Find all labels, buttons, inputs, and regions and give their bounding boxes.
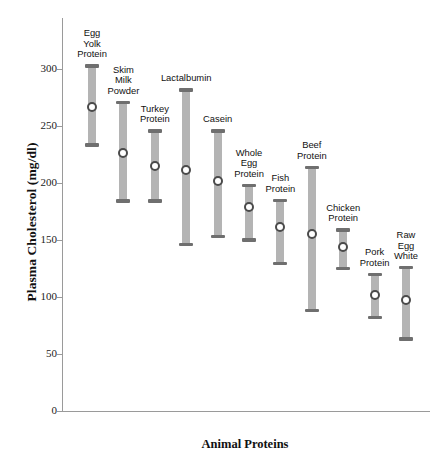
mean-marker[interactable] [370,290,380,300]
mean-marker[interactable] [213,176,223,186]
y-axis-line [62,18,63,412]
series-label: RawEggWhite [394,230,418,261]
range-bar [276,200,284,264]
y-tick-label: 200 [41,176,58,188]
range-cap-upper [305,166,319,170]
range-cap-lower [336,267,350,271]
range-bar [245,185,253,240]
y-tick-mark [57,354,62,355]
range-cap-lower [399,337,413,341]
mean-marker[interactable] [87,102,97,112]
y-tick-mark [57,240,62,241]
range-cap-lower [368,316,382,320]
series-label: WholeEggProtein [234,148,264,179]
range-cap-lower [148,199,162,203]
range-cap-upper [148,129,162,133]
mean-marker[interactable] [244,202,254,212]
y-tick-label: 150 [41,233,58,245]
y-tick-mark [57,297,62,298]
range-cap-lower [85,143,99,147]
range-cap-upper [116,101,130,105]
range-cap-upper [336,228,350,232]
range-cap-lower [116,199,130,203]
y-tick-label: 0 [52,404,58,416]
range-cap-upper [179,88,193,92]
range-cap-upper [242,184,256,188]
y-tick-label: 250 [41,119,58,131]
series-label: TurkeyProtein [140,104,170,125]
y-tick-mark [57,411,62,412]
mean-marker[interactable] [338,242,348,252]
range-cap-lower [211,235,225,239]
series-label: ChickenProtein [326,203,360,224]
range-cap-lower [273,262,287,266]
series-label: EggYolkProtein [77,28,107,59]
y-tick-label: 50 [46,347,57,359]
y-tick-mark [57,69,62,70]
series-label: BeefProtein [297,140,327,161]
series-label: FishProtein [266,173,296,194]
range-cap-upper [211,129,225,133]
series-label: Lactalbumin [161,73,212,83]
plot-area: 050100150200250300 EggYolkProteinSkimMil… [62,18,430,412]
series-label: Casein [203,114,232,124]
y-axis-title: Plasma Cholesterol (mg/dl) [24,52,40,392]
x-axis-line [62,411,430,412]
range-cap-upper [399,266,413,270]
range-cap-lower [242,238,256,242]
y-tick-label: 100 [41,290,58,302]
x-axis-title: Animal Proteins [60,437,430,452]
plasma-cholesterol-range-chart: Plasma Cholesterol (mg/dl) 0501001502002… [0,0,437,462]
series-label: SkimMilkPowder [107,65,139,96]
range-cap-upper [85,64,99,68]
range-cap-lower [305,309,319,313]
y-tick-mark [57,126,62,127]
series-label: PorkProtein [360,247,390,268]
range-cap-upper [273,199,287,203]
range-cap-lower [179,243,193,247]
range-cap-upper [368,273,382,277]
y-tick-mark [57,183,62,184]
y-tick-label: 300 [41,62,58,74]
mean-marker[interactable] [150,161,160,171]
